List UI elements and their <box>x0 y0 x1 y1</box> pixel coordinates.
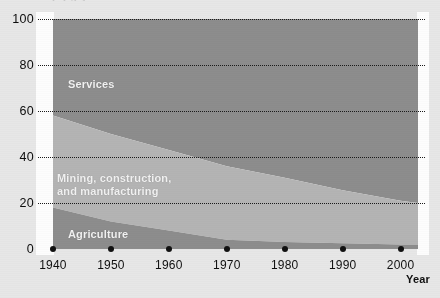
x-tick-dot-1990 <box>340 246 346 252</box>
gridline-60 <box>38 111 425 112</box>
x-tick-label-2000: 2000 <box>387 258 415 272</box>
y-tick-label-100: 100 <box>0 12 34 26</box>
plot-right-margin <box>417 12 429 255</box>
plot-left-margin <box>36 12 54 255</box>
x-tick-dot-1970 <box>224 246 230 252</box>
x-tick-label-1970: 1970 <box>213 258 241 272</box>
band-label-services: Services <box>68 78 114 91</box>
x-tick-dot-1950 <box>108 246 114 252</box>
x-axis-title: Year <box>406 273 430 285</box>
gridline-100 <box>38 19 425 20</box>
x-tick-label-1960: 1960 <box>155 258 183 272</box>
x-tick-label-1990: 1990 <box>329 258 357 272</box>
y-tick-label-20: 20 <box>0 196 34 210</box>
gridline-80 <box>38 65 425 66</box>
band-label-agriculture: Agriculture <box>68 228 128 241</box>
stacked-area-paths <box>53 19 418 249</box>
gridline-40 <box>38 157 425 158</box>
y-tick-label-80: 80 <box>0 58 34 72</box>
x-tick-label-1980: 1980 <box>271 258 299 272</box>
y-tick-label-40: 40 <box>0 150 34 164</box>
x-tick-dot-2000 <box>398 246 404 252</box>
x-tick-label-1950: 1950 <box>97 258 125 272</box>
x-tick-dot-1980 <box>282 246 288 252</box>
band-label-mining: Mining, construction, and manufacturing <box>57 172 171 198</box>
plot-area <box>53 19 418 249</box>
cropped-title-fragment: p j g y <box>52 0 88 1</box>
y-tick-label-0: 0 <box>0 242 34 256</box>
x-tick-dot-1940 <box>50 246 56 252</box>
y-axis-ticks: 020406080100 <box>0 0 34 298</box>
gridline-20 <box>38 203 425 204</box>
x-tick-label-1940: 1940 <box>39 258 67 272</box>
y-tick-label-60: 60 <box>0 104 34 118</box>
chart-figure: p j g y 020406080100 1940195019601970198… <box>0 0 440 298</box>
x-tick-dot-1960 <box>166 246 172 252</box>
